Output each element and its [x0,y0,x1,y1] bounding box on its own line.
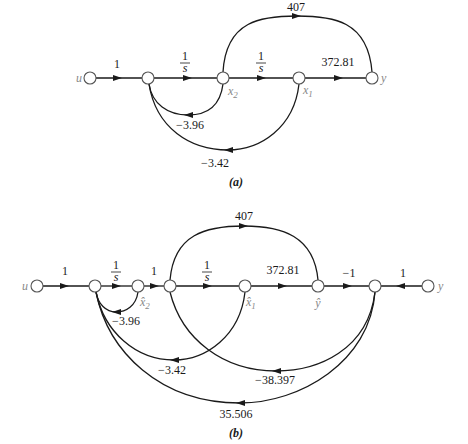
node-x2hat [132,280,144,292]
node-sum-1 [89,280,101,292]
arrow-icon [150,283,159,289]
arrow-icon [113,75,122,81]
gain-label: 1 [114,57,120,71]
node-sum-5 [369,280,381,292]
node-y [366,72,378,84]
gain-label: 372.81 [267,263,300,277]
node-label-u: u [22,279,28,293]
arrow-icon [257,75,266,81]
signal-flow-graphs: u x2 x1 y 1 1 s 1 s 372.81 407 −3.96 −3.… [0,0,468,444]
arrow-icon [236,400,245,406]
edge-x2hat-n1-feedback [96,292,138,312]
gain-label-den: s [259,61,264,75]
arrow-icon [343,283,352,289]
node-label-x2hat: x̂2 [139,295,150,311]
arrow-icon [278,283,287,289]
caption-a: (a) [229,175,243,189]
node-sum-3 [164,280,176,292]
arrow-icon [334,75,343,81]
gain-label: 407 [287,0,305,14]
gain-label: 1 [151,264,157,278]
gain-label: −3.42 [158,363,186,377]
arrow-icon [239,223,248,229]
gain-label: 407 [235,209,253,223]
arrow-icon [60,283,69,289]
gain-label-den: s [183,61,188,75]
diagram-b: u x̂2 x̂1 ŷ y 1 1 s 1 1 s 372.81 407 −1 … [22,209,444,440]
gain-label-den: s [205,270,210,284]
gain-label: −3.42 [201,156,229,170]
node-y [422,280,434,292]
arrow-icon [396,283,405,289]
caption-b: (b) [229,426,243,440]
gain-label-den: s [114,270,119,284]
arrow-icon [224,147,233,153]
gain-label: 35.506 [220,407,253,421]
arrow-icon [183,75,192,81]
node-u [84,72,96,84]
gain-label: −38.397 [255,373,295,387]
gain-label: −3.96 [176,118,204,132]
node-yhat [312,280,324,292]
node-x1hat [239,280,251,292]
node-label-y: y [437,279,444,293]
edge-n5-n1-feedforward [96,292,375,403]
edge-x1-n1-feedback [149,84,299,150]
gain-label: −1 [343,266,356,280]
gain-label: 372.81 [322,55,355,69]
node-u [31,280,43,292]
node-label-x1hat: x̂1 [245,295,256,311]
edge-x2-n1-feedback [149,84,223,115]
diagram-a: u x2 x1 y 1 1 s 1 s 372.81 407 −3.96 −3.… [76,0,387,189]
node-label-y: y [380,71,387,85]
gain-label: 1 [400,266,406,280]
node-x2 [217,72,229,84]
gain-label: 1 [62,264,68,278]
node-label-x1: x1 [302,83,313,99]
node-label-yhat: ŷ [314,296,321,310]
node-label-u: u [76,71,82,85]
node-label-x2: x2 [227,84,238,100]
node-sum [142,72,154,84]
gain-label: −3.96 [112,314,140,328]
